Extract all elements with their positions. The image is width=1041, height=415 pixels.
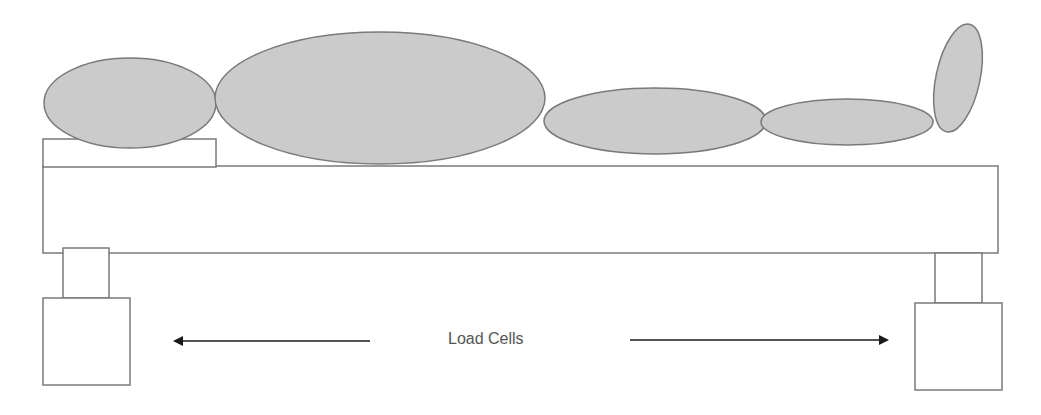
body-segment-thigh	[544, 88, 766, 154]
load-cells-label: Load Cells	[448, 331, 524, 347]
body-segment-foot	[925, 20, 991, 137]
right-load-cell	[915, 303, 1002, 390]
left-load-cell	[43, 298, 130, 385]
bed-load-cell-diagram	[0, 0, 1041, 415]
bed-structure	[43, 139, 998, 253]
pointer-arrows	[175, 340, 887, 341]
bed-platform	[43, 166, 998, 253]
right-load-cell-leg	[935, 253, 982, 303]
body-segment-head	[44, 58, 216, 148]
left-load-cell-leg	[63, 248, 109, 298]
load-cells	[43, 248, 1002, 390]
body-segment-lower-leg	[761, 99, 933, 145]
body-segment-torso	[215, 32, 545, 164]
